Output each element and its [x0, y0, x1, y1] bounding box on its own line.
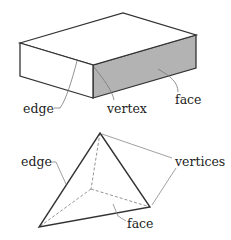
vertices-leader-line [102, 134, 172, 158]
edge-leader-line [50, 162, 66, 184]
hidden-edge [91, 133, 100, 189]
tetrahedron-outline [39, 133, 150, 227]
tetrahedron: edge vertices face [21, 133, 225, 231]
face-label: face [175, 92, 201, 107]
vertices-label: vertices [174, 154, 225, 169]
face-label: face [127, 216, 153, 231]
vertex-label: vertex [106, 101, 147, 116]
edge-label: edge [21, 154, 52, 169]
rectangular-prism: edge vertex face [20, 13, 201, 116]
edge-label: edge [23, 101, 54, 116]
polyhedra-diagram: edge vertex face edge vertices face [0, 0, 231, 240]
vertices-leader-line [152, 168, 176, 205]
hidden-edge [91, 189, 150, 207]
hidden-edge [39, 189, 91, 227]
